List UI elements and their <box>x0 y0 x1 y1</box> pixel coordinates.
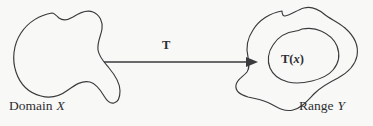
image-label-Tx: T(x) <box>281 53 304 66</box>
transformation-arrow-head <box>246 57 258 67</box>
arrow-label-text: T <box>162 38 170 52</box>
range-label: RangeY <box>299 99 345 113</box>
range-label-word: Range <box>299 98 334 113</box>
domain-label: DomainX <box>9 99 65 113</box>
domain-label-word: Domain <box>9 98 53 113</box>
domain-label-var: X <box>57 98 65 113</box>
arrow-label-T: T <box>162 39 170 52</box>
transformation-diagram: T T(x) DomainX RangeY <box>0 0 373 126</box>
range-label-var: Y <box>338 98 346 113</box>
domain-blob <box>14 11 120 103</box>
image-label-close-paren: ) <box>300 52 304 66</box>
